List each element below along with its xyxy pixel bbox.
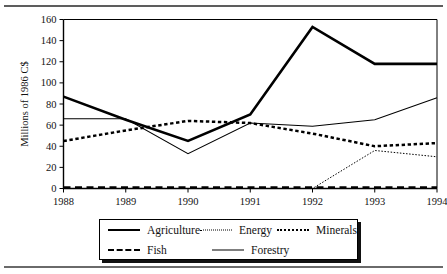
bottom-horizontal-rule: [4, 266, 443, 268]
chart-legend: Agriculture Energy Minerals Fish Forestr…: [99, 219, 358, 260]
axis-top-right: [64, 20, 438, 189]
y-tick-label: 80: [46, 99, 57, 110]
axis-left-bottom: [64, 20, 438, 189]
figure: 0204060801001201401601988198919901991199…: [0, 0, 447, 274]
chart-axes: [60, 20, 438, 193]
legend-label-fish: Fish: [147, 244, 167, 256]
y-tick-label: 160: [41, 14, 57, 25]
legend-label-minerals: Minerals: [316, 224, 357, 236]
y-tick-label: 120: [41, 56, 57, 67]
legend-label-agriculture: Agriculture: [147, 224, 200, 236]
y-axis-title: Millions of 1986 C$: [19, 61, 30, 146]
legend-item-minerals[interactable]: Minerals: [277, 220, 357, 240]
legend-label-energy: Energy: [239, 224, 272, 236]
dashed-thick-line-icon: [108, 244, 140, 256]
series-line-energy: [64, 150, 438, 188]
legend-row-2: Fish Forestry: [100, 240, 357, 260]
y-tick-label: 40: [46, 141, 57, 152]
legend-item-agriculture[interactable]: Agriculture: [108, 220, 200, 240]
legend-item-fish[interactable]: Fish: [108, 240, 212, 260]
dotted-thick-line-icon: [277, 224, 309, 236]
y-tick-label: 0: [51, 183, 56, 194]
legend-item-energy[interactable]: Energy: [200, 220, 277, 240]
x-tick-label: 1988: [53, 196, 74, 207]
solid-thin-line-icon: [212, 244, 244, 256]
y-tick-label: 100: [41, 77, 57, 88]
y-tick-label: 140: [41, 35, 57, 46]
dotted-fine-line-icon: [200, 224, 232, 236]
x-tick-label: 1993: [364, 196, 385, 207]
x-tick-label: 1989: [115, 196, 136, 207]
series-line-minerals: [64, 121, 438, 146]
chart-tick-labels: 0204060801001201401601988198919901991199…: [19, 14, 447, 206]
solid-thick-line-icon: [108, 224, 140, 236]
y-tick-label: 60: [46, 120, 57, 131]
x-tick-label: 1992: [302, 196, 323, 207]
x-tick-label: 1990: [178, 196, 199, 207]
legend-item-forestry[interactable]: Forestry: [212, 240, 289, 260]
legend-label-forestry: Forestry: [251, 244, 289, 256]
chart-series: [64, 27, 438, 189]
x-tick-label: 1991: [240, 196, 261, 207]
x-tick-label: 1994: [427, 196, 447, 207]
y-tick-label: 20: [46, 162, 57, 173]
legend-row-1: Agriculture Energy Minerals: [100, 220, 357, 240]
